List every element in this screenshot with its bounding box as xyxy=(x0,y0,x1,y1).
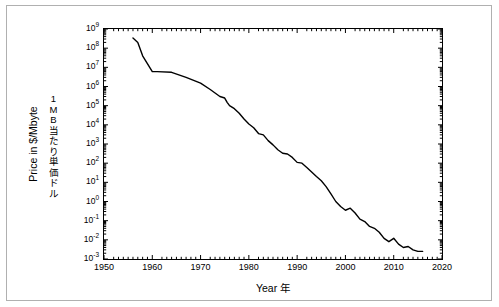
y-tick-label: 102 xyxy=(55,158,99,166)
y-tick-label: 10-3 xyxy=(55,254,99,262)
x-tick-label: 1960 xyxy=(132,262,172,272)
y-tick-label: 104 xyxy=(55,120,99,128)
y-tick-label: 108 xyxy=(55,43,99,51)
series-line-hard-drive-cost xyxy=(133,38,423,251)
x-axis-tick-labels: 19501960197019801990200020102020 xyxy=(103,262,443,276)
y-tick-label: 105 xyxy=(55,101,99,109)
y-tick-label: 100 xyxy=(55,197,99,205)
x-tick-label: 2000 xyxy=(325,262,365,272)
y-tick-label: 103 xyxy=(55,139,99,147)
x-axis-label: Year 年 xyxy=(103,280,443,295)
x-tick-label: 2020 xyxy=(422,262,462,272)
x-tick-label: 1970 xyxy=(181,262,221,272)
y-tick-label: 107 xyxy=(55,62,99,70)
x-tick-label: 1990 xyxy=(277,262,317,272)
plot-area xyxy=(103,28,443,260)
y-tick-label: 109 xyxy=(55,24,99,32)
y-tick-label: 106 xyxy=(55,82,99,90)
y-tick-label: 10-1 xyxy=(55,216,99,224)
x-tick-label: 1980 xyxy=(229,262,269,272)
figure-frame: Price in $/Mbyte 1MB当たり単価ドル 10-310-210-1… xyxy=(6,5,492,301)
x-tick-label: 2010 xyxy=(374,262,414,272)
y-tick-label: 101 xyxy=(55,177,99,185)
chart-page: Price in $/Mbyte 1MB当たり単価ドル 10-310-210-1… xyxy=(0,0,499,307)
x-tick-label: 1950 xyxy=(84,262,124,272)
y-axis-tick-labels: 10-310-210-11001011021031041051061071081… xyxy=(51,28,99,260)
data-line-chart xyxy=(104,29,442,259)
y-axis-label-english: Price in $/Mbyte xyxy=(27,106,39,181)
y-tick-label: 10-2 xyxy=(55,235,99,243)
